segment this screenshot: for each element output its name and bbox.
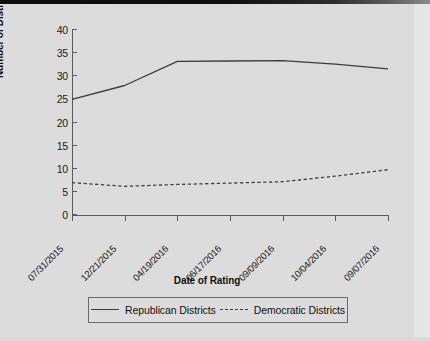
y-axis-tick: 20 — [0, 117, 78, 129]
y-axis-tick-mark — [72, 98, 77, 99]
y-axis-title: Number of Districts — [0, 0, 5, 78]
y-axis-tick: 10 — [0, 163, 78, 175]
legend-line-swatch-solid — [91, 306, 119, 314]
page-right-margin — [414, 4, 430, 337]
series-line-republican — [72, 61, 388, 100]
y-axis-tick: 15 — [0, 140, 78, 152]
y-axis-tick-label: 20 — [28, 117, 68, 129]
y-axis-tick-label: 0 — [28, 209, 68, 221]
y-axis-tick: 5 — [0, 186, 78, 198]
legend-entry-democratic: Democratic Districts — [220, 304, 345, 316]
x-axis-tick-mark — [177, 216, 178, 221]
y-axis-tick-mark — [72, 168, 77, 169]
legend-entry-republican: Republican Districts — [91, 304, 216, 316]
x-axis-tick-mark — [388, 216, 389, 221]
y-axis-tick-label: 10 — [28, 163, 68, 175]
y-axis-tick-label: 5 — [28, 186, 68, 198]
y-axis-tick: 35 — [0, 47, 78, 59]
y-axis-tick-mark — [72, 29, 77, 30]
y-axis-tick-mark — [72, 122, 77, 123]
x-axis-tick-mark — [230, 216, 231, 221]
y-axis-tick-mark — [72, 214, 77, 215]
chart-legend: Republican Districts Democratic District… — [88, 297, 348, 323]
y-axis-tick: 0 — [0, 209, 78, 221]
y-axis-tick-mark — [72, 145, 77, 146]
y-axis-tick-label: 25 — [28, 93, 68, 105]
x-axis-title: Date of Rating — [0, 275, 414, 286]
y-axis-tick-mark — [72, 52, 77, 53]
y-axis-tick-label: 35 — [28, 47, 68, 59]
x-axis-tick-mark — [125, 216, 126, 221]
y-axis-tick-label: 40 — [28, 24, 68, 36]
series-line-democratic — [72, 170, 388, 187]
line-chart-figure: Number of Districts 4035302520151050 07/… — [0, 4, 414, 332]
legend-label-republican: Republican Districts — [125, 304, 216, 316]
y-axis-tick-mark — [72, 75, 77, 76]
legend-line-swatch-dashed — [220, 306, 248, 314]
legend-label-democratic: Democratic Districts — [254, 304, 345, 316]
y-axis-tick: 40 — [0, 24, 78, 36]
y-axis-tick: 25 — [0, 93, 78, 105]
x-axis-tick-mark — [335, 216, 336, 221]
y-axis-tick: 30 — [0, 70, 78, 82]
y-axis-tick-mark — [72, 191, 77, 192]
y-axis-tick-label: 30 — [28, 70, 68, 82]
x-axis-tick-mark — [283, 216, 284, 221]
x-axis-tick-mark — [72, 216, 73, 221]
y-axis-tick-label: 15 — [28, 140, 68, 152]
